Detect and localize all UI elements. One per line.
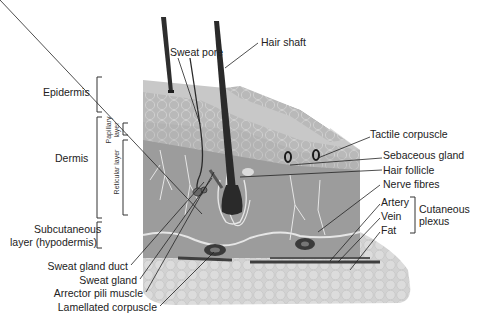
label-sweat-gland-duct: Sweat gland duct [10, 260, 128, 272]
label-hair-shaft: Hair shaft [261, 36, 306, 48]
cutaneous-plexus-bracket [410, 197, 415, 233]
label-sweat-gland: Sweat gland [10, 274, 137, 286]
label-epidermis: Epidermis [43, 86, 90, 98]
label-sebaceous-gland: Sebaceous gland [383, 149, 464, 161]
label-cutaneous: Cutaneous [419, 203, 470, 215]
label-arrector-pili-muscle: Arrector pili muscle [10, 287, 143, 299]
label-papillary-line1: Papillary [105, 117, 112, 144]
label-papillary-layer: Papillary layer [105, 115, 121, 145]
label-hair-follicle: Hair follicle [383, 164, 434, 176]
label-lamellated-corpuscle: Lamellated corpuscle [10, 301, 157, 313]
label-tactile-corpuscle: Tactile corpuscle [370, 128, 448, 140]
label-artery: Artery [381, 196, 409, 208]
label-subcutaneous-2: layer (hypodermis) [10, 236, 92, 248]
label-papillary-line2: layer [113, 122, 120, 137]
label-nerve-fibres: Nerve fibres [383, 178, 440, 190]
label-dermis: Dermis [55, 152, 88, 164]
label-subcutaneous-1: Subcutaneous [34, 223, 92, 235]
label-sweat-pore: Sweat pore [170, 46, 223, 58]
label-plexus: plexus [419, 215, 449, 227]
label-fat: Fat [381, 224, 396, 236]
label-vein: Vein [381, 210, 401, 222]
label-reticular-layer: Reticular layer [113, 142, 121, 202]
skin-diagram: Epidermis Dermis Subcutaneous layer (hyp… [0, 0, 481, 328]
